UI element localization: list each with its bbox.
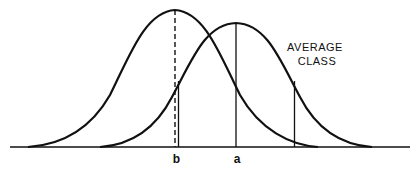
label-b: b: [173, 152, 180, 166]
distribution-diagram: b a AVERAGE CLASS: [0, 0, 420, 172]
left-distribution-curve: [28, 10, 318, 147]
label-a: a: [234, 152, 241, 166]
curve-label-line2: CLASS: [298, 55, 337, 67]
curve-label-line1: AVERAGE: [287, 41, 343, 53]
